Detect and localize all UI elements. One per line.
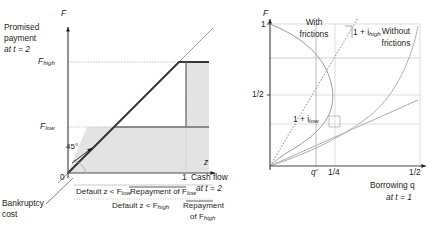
right-slope-label-ihigh-base: 1 + i <box>353 27 369 37</box>
right-ytick-half-label: 1/2 <box>252 89 264 100</box>
figure-container: F Promised payment at t = 2 Fhigh Flow 0… <box>0 0 437 232</box>
left-ytick-flow-sub: low <box>45 124 54 131</box>
left-shade-low <box>68 127 186 173</box>
left-y-axis-symbol: F <box>61 8 66 19</box>
right-x-caption-line2: at t = 1 <box>386 192 412 203</box>
right-angle-marker-high <box>345 26 352 38</box>
right-xtick-half: 1/2 <box>409 167 421 178</box>
right-xtick-qprime: q' <box>311 167 317 178</box>
right-slope-label-ilow: 1 + ilow <box>293 114 318 127</box>
left-band-default-high: Default z < Fhigh <box>112 201 169 213</box>
left-band-repay-low-sub: low <box>187 189 196 196</box>
right-angle-marker-low <box>329 116 340 127</box>
left-panel-plot <box>46 27 215 204</box>
left-bankruptcy-line1: Bankruptcy <box>2 198 44 209</box>
left-band-repay-high-line1: Repayment <box>183 201 224 212</box>
left-band-default-high-sub: high <box>158 203 170 210</box>
left-y-caption-line3: at t = 2 <box>4 44 30 55</box>
left-ytick-flow: Flow <box>40 121 54 134</box>
left-band-repay-high-sub: high <box>204 214 216 221</box>
left-x-caption-line2: at t = 2 <box>196 183 222 194</box>
right-label-with-frictions-line1: With <box>292 17 336 28</box>
left-x-caption-line1: Cash flow <box>191 172 228 183</box>
left-angle-label: 45° <box>66 142 78 153</box>
left-y-caption-line2: payment <box>4 33 36 44</box>
left-band-default-low-text: Default z < F <box>76 187 122 196</box>
right-x-caption-line1: Borrowing q <box>370 180 415 191</box>
right-ytick-one-label: 1 <box>261 19 266 30</box>
right-slope-label-ilow-sub: low <box>309 117 318 124</box>
right-ray-ihigh <box>270 18 358 166</box>
left-y-caption-line1: Promised <box>4 22 39 33</box>
left-origin-label: 0 <box>60 172 65 183</box>
left-bankruptcy-line2: cost <box>2 209 17 220</box>
left-band-repay-high-line2: of Fhigh <box>190 212 215 224</box>
left-band-repay-low-text: Repayment of F <box>130 187 187 196</box>
left-ytick-fhigh: Fhigh <box>38 56 55 69</box>
right-xtick-quarter: 1/4 <box>328 167 340 178</box>
left-band-repay-low: Repayment of Flow <box>130 187 196 199</box>
right-slope-label-ihigh-sub: high <box>369 30 381 37</box>
left-band-default-low: Default z < Flow <box>76 187 131 199</box>
left-x-axis-symbol: z <box>204 157 208 168</box>
left-band-repay-high-text: of F <box>190 212 204 221</box>
left-ytick-fhigh-sub: high <box>43 59 55 66</box>
right-y-axis-symbol: F <box>263 8 268 19</box>
right-x-caption-text: Borrowing q <box>370 180 415 190</box>
right-slope-label-ihigh: 1 + ihigh <box>353 27 381 40</box>
left-xtick-one: 1 <box>182 172 187 183</box>
left-band-default-high-text: Default z < F <box>112 201 158 210</box>
left-shade-high-upper <box>186 62 209 127</box>
right-slope-label-ilow-base: 1 + i <box>293 114 309 124</box>
right-label-with-frictions-line2: frictions <box>288 29 340 40</box>
